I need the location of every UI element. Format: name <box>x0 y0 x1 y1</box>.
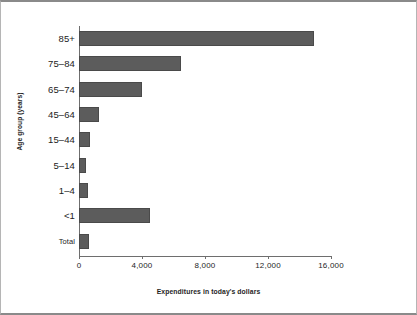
x-axis-tick-label: 4,000 <box>131 261 152 270</box>
bar-row <box>79 228 331 253</box>
bar-row <box>79 51 331 76</box>
y-axis-tick-label: <1 <box>27 203 75 228</box>
bar <box>79 31 314 46</box>
bar-row <box>79 203 331 228</box>
y-axis-tick-label: 45–64 <box>27 102 75 127</box>
y-axis-tick-label: 1–4 <box>27 178 75 203</box>
x-axis-tick-mark <box>205 256 206 259</box>
y-axis-tick-label: 5–14 <box>27 152 75 177</box>
x-axis-tick-label: 12,000 <box>255 261 281 270</box>
x-axis-tick-label: 8,000 <box>194 261 215 270</box>
x-axis-tick-label: 16,000 <box>318 261 344 270</box>
bar <box>79 107 99 122</box>
y-axis-tick-label: 75–84 <box>27 51 75 76</box>
y-axis-tick-labels: 85+75–8465–7445–6415–445–141–4<1Total <box>27 26 75 254</box>
plot-area <box>79 26 331 254</box>
y-axis-tick-label: Total <box>27 228 75 253</box>
bar-row <box>79 152 331 177</box>
bar <box>79 234 89 249</box>
x-axis-tick-mark <box>331 256 332 259</box>
x-axis-tick-mark <box>268 256 269 259</box>
bar <box>79 183 88 198</box>
x-axis-title: Expenditures in today's dollars <box>1 288 416 295</box>
bar-row <box>79 26 331 51</box>
bar-row <box>79 127 331 152</box>
bar <box>79 158 86 173</box>
x-axis-tick-mark <box>79 256 80 259</box>
bar-row <box>79 102 331 127</box>
bar <box>79 132 90 147</box>
bar-row <box>79 77 331 102</box>
bar-row <box>79 178 331 203</box>
y-axis-title: Age group (years) <box>16 77 23 167</box>
bar <box>79 82 142 97</box>
x-axis-tick-mark <box>142 256 143 259</box>
x-axis-tick-label: 0 <box>77 261 82 270</box>
chart-figure: Age group (years) 85+75–8465–7445–6415–4… <box>0 0 417 315</box>
y-axis-tick-label: 65–74 <box>27 77 75 102</box>
y-axis-tick-label: 15–44 <box>27 127 75 152</box>
bar <box>79 208 150 223</box>
y-axis-tick-label: 85+ <box>27 26 75 51</box>
bar <box>79 56 181 71</box>
